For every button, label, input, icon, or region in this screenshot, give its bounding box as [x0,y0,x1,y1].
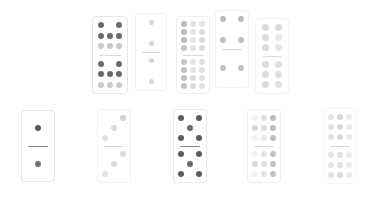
domino-pip [111,125,117,131]
domino-pip [107,71,113,77]
domino-pip [220,16,226,22]
domino-pip [196,151,202,157]
domino-pip [190,29,196,35]
domino-pip [252,171,258,177]
domino-pip [328,172,334,178]
domino-pip [328,162,334,168]
domino-pip [181,83,187,89]
domino-top-half [136,14,166,52]
domino-tile[interactable] [21,110,55,182]
domino-pip [116,43,122,49]
domino-top-half [324,109,356,146]
domino-pip [149,20,154,25]
domino-pip [149,58,154,63]
domino-pip [262,61,269,68]
domino-pip [275,34,282,41]
domino-top-half [22,111,54,146]
domino-pip [261,125,267,131]
domino-pip [98,33,104,39]
domino-pip [275,71,282,78]
domino-bottom-half [93,56,127,94]
domino-pip [98,82,104,88]
domino-bottom-half [248,147,280,183]
domino-pip [328,114,334,120]
domino-pip [275,61,282,68]
domino-pip [107,43,113,49]
domino-pip [262,34,269,41]
domino-pip [275,81,282,88]
domino-pip [346,172,352,178]
domino-pip [270,135,276,141]
domino-tile[interactable] [255,18,289,94]
domino-top-half [174,110,206,146]
domino-pip [149,79,154,84]
domino-pip [252,115,258,121]
domino-pip [98,71,104,77]
domino-pip [270,151,276,157]
domino-pip [116,61,122,67]
domino-top-half [177,17,209,55]
domino-bottom-half [324,147,356,184]
domino-pip [262,44,269,51]
domino-pip [181,75,187,81]
domino-tile[interactable] [173,109,207,183]
domino-pip [116,71,122,77]
domino-pip [261,151,267,157]
domino-pip [262,24,269,31]
domino-pip [120,151,126,157]
domino-bottom-half [216,50,248,88]
domino-pip [199,21,205,27]
domino-pip [252,151,258,157]
domino-pip [337,162,343,168]
domino-pip [98,22,104,28]
domino-pip [220,65,226,71]
domino-pip [181,29,187,35]
domino-pip [337,172,343,178]
domino-pip [178,135,184,141]
domino-tile[interactable] [176,16,210,94]
domino-pip [199,83,205,89]
domino-pip [346,134,352,140]
domino-pip [346,124,352,130]
domino-pip [252,125,258,131]
domino-pip [262,81,269,88]
domino-tile[interactable] [92,16,128,94]
domino-pip [275,44,282,51]
domino-pip [181,37,187,43]
domino-pip [346,162,352,168]
domino-pip [190,45,196,51]
domino-tile[interactable] [215,10,249,88]
domino-pip [199,45,205,51]
domino-pip [190,21,196,27]
domino-pip [35,161,41,167]
domino-pip [199,59,205,65]
domino-pip [337,124,343,130]
domino-tile[interactable] [135,13,167,91]
domino-pip [238,37,244,43]
domino-pip [261,161,267,167]
domino-bottom-half [22,147,54,182]
domino-bottom-half [174,147,206,183]
domino-tile[interactable] [247,109,281,183]
domino-tile[interactable] [323,108,357,184]
domino-pip [116,33,122,39]
domino-top-half [93,17,127,55]
domino-pip [35,125,41,131]
domino-top-half [256,19,288,56]
domino-pip [116,22,122,28]
domino-pip [190,67,196,73]
domino-top-half [98,110,130,146]
domino-pip [111,161,117,167]
domino-tile[interactable] [97,109,131,183]
domino-pip [190,83,196,89]
domino-pip [107,82,113,88]
domino-pip [199,75,205,81]
domino-top-half [248,110,280,146]
domino-pip [220,37,226,43]
domino-pip [178,171,184,177]
domino-pip [252,135,258,141]
domino-pip [270,171,276,177]
domino-pip [261,135,267,141]
domino-pip [181,45,187,51]
domino-pip [275,24,282,31]
